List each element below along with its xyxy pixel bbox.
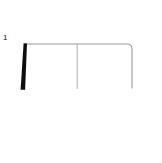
top-rule-gridline [26, 44, 132, 88]
chart-figure: 1 [0, 0, 162, 163]
chart-canvas [0, 0, 162, 163]
bar-series-1 [21, 43, 27, 90]
